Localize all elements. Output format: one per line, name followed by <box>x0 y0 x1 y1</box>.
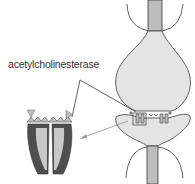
acetylcholinesterase-enzyme <box>27 110 73 174</box>
presynaptic-terminal <box>116 31 191 111</box>
synapse-diagram <box>0 0 195 184</box>
acetylcholine-triangle-left <box>27 110 35 117</box>
upper-axon <box>148 0 162 31</box>
grey-arrowhead-icon <box>80 134 87 139</box>
postsynaptic-membrane <box>116 114 190 146</box>
lower-axon <box>147 146 158 184</box>
